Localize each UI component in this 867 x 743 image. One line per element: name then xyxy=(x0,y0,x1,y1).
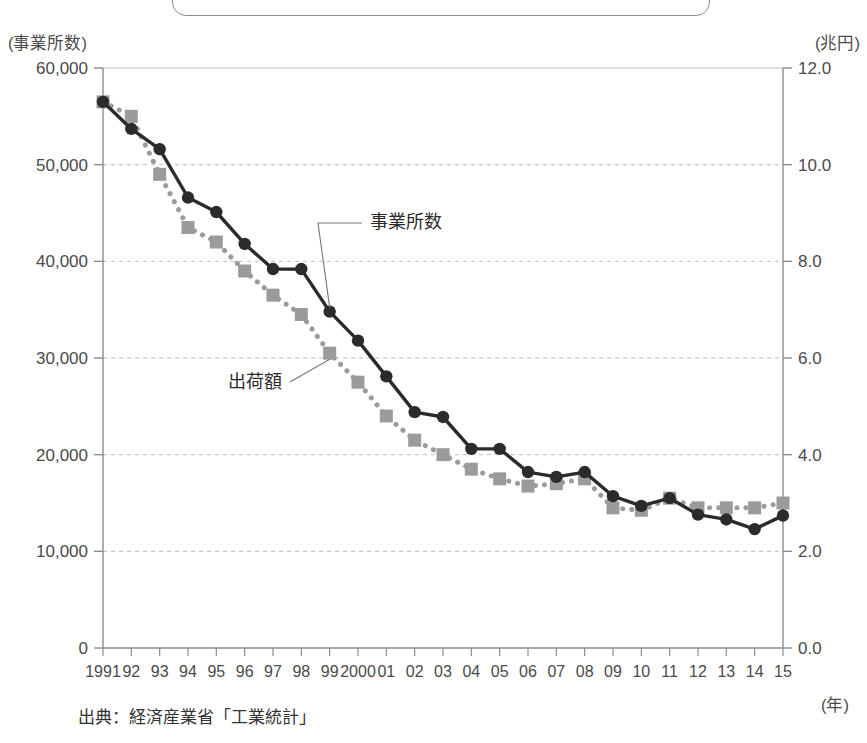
data-point-marker xyxy=(578,466,590,478)
x-tick-label: 02 xyxy=(406,663,424,680)
data-point-marker xyxy=(267,289,280,302)
data-point-marker xyxy=(493,443,505,455)
data-point-marker xyxy=(182,221,195,234)
data-point-marker xyxy=(748,523,760,535)
y-tick-label-left: 30,000 xyxy=(36,349,88,368)
data-point-marker xyxy=(323,347,336,360)
data-point-marker xyxy=(210,206,222,218)
gridlines xyxy=(103,68,783,551)
data-point-marker xyxy=(295,263,307,275)
data-point-marker xyxy=(380,410,393,423)
data-point-marker xyxy=(465,463,478,476)
x-tick-label: 05 xyxy=(491,663,509,680)
x-tick-label: 07 xyxy=(547,663,565,680)
data-point-marker xyxy=(153,143,165,155)
data-point-marker xyxy=(153,168,166,181)
data-point-marker xyxy=(380,370,392,382)
x-axis: 1991929394959697989920000102030405060708… xyxy=(85,648,792,680)
data-point-marker xyxy=(210,236,223,249)
x-tick-label: 99 xyxy=(321,663,339,680)
data-point-marker xyxy=(465,443,477,455)
x-tick-label: 96 xyxy=(236,663,254,680)
y-tick-label-left: 40,000 xyxy=(36,252,88,271)
y-axis-left: 010,00020,00030,00040,00050,00060,000 xyxy=(36,59,103,658)
y-tick-label-left: 60,000 xyxy=(36,59,88,78)
x-tick-label: 10 xyxy=(632,663,650,680)
data-point-marker xyxy=(748,501,761,514)
x-tick-label: 1991 xyxy=(85,663,121,680)
x-tick-label: 13 xyxy=(717,663,735,680)
data-point-marker xyxy=(607,490,619,502)
data-point-marker xyxy=(522,480,535,493)
x-tick-label: 01 xyxy=(377,663,395,680)
data-point-marker xyxy=(437,411,449,423)
data-point-marker xyxy=(777,509,789,521)
data-point-marker xyxy=(97,96,109,108)
data-point-marker xyxy=(295,308,308,321)
data-point-marker xyxy=(267,263,279,275)
series-line xyxy=(103,102,783,529)
x-tick-label: 12 xyxy=(689,663,707,680)
series-annotation-label: 事業所数 xyxy=(370,212,442,232)
x-tick-label: 04 xyxy=(462,663,480,680)
data-point-marker xyxy=(692,508,704,520)
data-point-marker xyxy=(125,110,138,123)
series-annotations: 事業所数出荷額 xyxy=(228,212,442,392)
x-tick-label: 94 xyxy=(179,663,197,680)
x-tick-label: 03 xyxy=(434,663,452,680)
y-tick-label-right: 2.0 xyxy=(798,542,822,561)
data-point-marker xyxy=(663,492,675,504)
y-tick-label-left: 0 xyxy=(79,639,88,658)
annotation-leader-line xyxy=(318,223,362,308)
series-annotation-label: 出荷額 xyxy=(228,372,282,392)
x-tick-label: 09 xyxy=(604,663,622,680)
data-point-marker xyxy=(522,466,534,478)
x-tick-label: 2000 xyxy=(340,663,376,680)
y-tick-label-right: 12.0 xyxy=(798,59,831,78)
series-shipment-value xyxy=(97,95,790,516)
data-point-marker xyxy=(437,448,450,461)
y-tick-label-left: 50,000 xyxy=(36,156,88,175)
data-point-marker xyxy=(720,513,732,525)
source-note: 出典：経済産業省「工業統計」 xyxy=(78,703,316,728)
line-chart-plot: 010,00020,00030,00040,00050,00060,000 0.… xyxy=(0,0,867,743)
chart-figure: (事業所数) (兆円) (年) 010,00020,00030,00040,00… xyxy=(0,0,867,743)
x-tick-label: 06 xyxy=(519,663,537,680)
data-point-marker xyxy=(635,500,647,512)
x-tick-label: 11 xyxy=(661,663,678,680)
x-tick-label: 98 xyxy=(292,663,310,680)
x-tick-label: 93 xyxy=(151,663,169,680)
data-point-marker xyxy=(493,472,506,485)
y-tick-label-left: 20,000 xyxy=(36,446,88,465)
y-tick-label-left: 10,000 xyxy=(36,542,88,561)
y-tick-label-right: 8.0 xyxy=(798,252,822,271)
x-tick-label: 95 xyxy=(207,663,225,680)
data-point-marker xyxy=(550,471,562,483)
data-point-marker xyxy=(238,265,251,278)
data-point-marker xyxy=(408,434,421,447)
data-point-marker xyxy=(182,191,194,203)
data-point-marker xyxy=(408,406,420,418)
x-tick-label: 14 xyxy=(746,663,764,680)
x-tick-label: 08 xyxy=(576,663,594,680)
data-point-marker xyxy=(125,123,137,135)
y-tick-label-right: 6.0 xyxy=(798,349,822,368)
y-axis-right: 0.02.04.06.08.010.012.0 xyxy=(783,59,831,658)
data-point-marker xyxy=(352,376,365,389)
annotation-leader-line xyxy=(290,359,330,382)
series-establishment-count xyxy=(97,96,789,536)
data-point-marker xyxy=(777,497,790,510)
data-point-marker xyxy=(238,238,250,250)
y-tick-label-right: 0.0 xyxy=(798,639,822,658)
x-tick-label: 97 xyxy=(264,663,282,680)
x-tick-label: 92 xyxy=(122,663,140,680)
x-tick-label: 15 xyxy=(774,663,792,680)
data-point-marker xyxy=(607,501,620,514)
y-tick-label-right: 4.0 xyxy=(798,446,822,465)
data-point-marker xyxy=(720,501,733,514)
data-point-marker xyxy=(352,334,364,346)
y-tick-label-right: 10.0 xyxy=(798,156,831,175)
